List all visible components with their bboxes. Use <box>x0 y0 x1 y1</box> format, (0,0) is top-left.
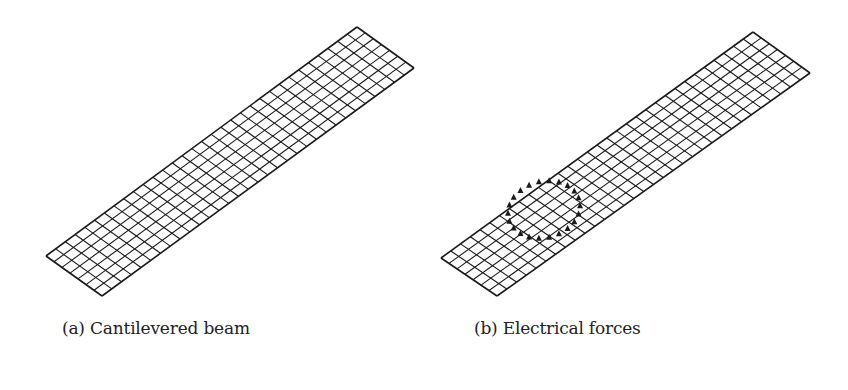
cantilevered-beam-mesh <box>46 27 414 296</box>
caption-electrical-forces: (b) Electrical forces <box>474 318 641 338</box>
caption-cantilevered-beam: (a) Cantilevered beam <box>62 318 250 338</box>
electrical-forces-mesh <box>441 32 810 296</box>
